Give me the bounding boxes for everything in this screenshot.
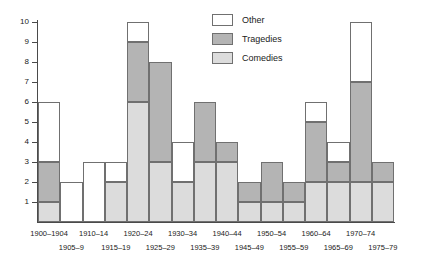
legend-swatch-other-icon: [212, 14, 233, 26]
stacked-bar-chart: 12345678910 1900–19041905–91910–141915–1…: [0, 0, 440, 269]
bar-segment-tragedies[interactable]: [149, 62, 171, 162]
bar-segment-tragedies[interactable]: [305, 122, 327, 182]
bar-1965-69[interactable]: [327, 22, 349, 222]
bar-segment-other[interactable]: [127, 22, 149, 42]
y-axis-tick-label: 1: [9, 198, 29, 206]
bar-segment-comedies[interactable]: [283, 202, 305, 222]
x-axis-tick-label: 1955–59: [270, 244, 318, 252]
y-axis-tick-label: 10: [9, 18, 29, 26]
bar-segment-comedies[interactable]: [149, 162, 171, 222]
bar-1915-19[interactable]: [105, 22, 127, 222]
y-axis-tick-label: 6: [9, 98, 29, 106]
x-axis-tick-label: 1975–79: [359, 244, 407, 252]
bar-segment-other[interactable]: [105, 162, 127, 182]
bar-segment-comedies[interactable]: [305, 182, 327, 222]
bar-segment-other[interactable]: [60, 182, 82, 222]
bar-segment-tragedies[interactable]: [216, 142, 238, 162]
x-axis-tick-label: 1965–69: [314, 244, 362, 252]
bar-segment-other[interactable]: [38, 102, 60, 162]
legend-swatch-comedies-icon: [212, 52, 233, 64]
bar-1900-1904[interactable]: [38, 22, 60, 222]
bar-segment-other[interactable]: [172, 142, 194, 182]
bar-segment-comedies[interactable]: [172, 182, 194, 222]
bar-segment-other[interactable]: [327, 142, 349, 162]
bar-segment-tragedies[interactable]: [372, 162, 394, 182]
bar-1970-74[interactable]: [350, 22, 372, 222]
x-axis-line: [37, 222, 395, 223]
legend-item-tragedies[interactable]: Tragedies: [212, 31, 283, 47]
x-axis-tick-label: 1910–14: [70, 230, 118, 238]
y-axis-tick-label: 4: [9, 138, 29, 146]
bar-1955-59[interactable]: [283, 22, 305, 222]
bar-segment-comedies[interactable]: [238, 202, 260, 222]
bar-1925-29[interactable]: [149, 22, 171, 222]
bar-segment-comedies[interactable]: [327, 182, 349, 222]
x-axis-tick-label: 1935–39: [181, 244, 229, 252]
x-axis-tick-label: 1950–54: [248, 230, 296, 238]
bar-segment-comedies[interactable]: [261, 202, 283, 222]
bar-segment-comedies[interactable]: [372, 182, 394, 222]
y-axis-tick-label: 9: [9, 38, 29, 46]
bar-1975-79[interactable]: [372, 22, 394, 222]
bar-1920-24[interactable]: [127, 22, 149, 222]
bar-segment-tragedies[interactable]: [350, 82, 372, 182]
bar-segment-tragedies[interactable]: [261, 162, 283, 202]
bar-segment-comedies[interactable]: [38, 202, 60, 222]
legend-swatch-tragedies-icon: [212, 33, 233, 45]
bar-segment-tragedies[interactable]: [38, 162, 60, 202]
legend-label: Tragedies: [242, 35, 282, 44]
bar-segment-other[interactable]: [305, 102, 327, 122]
x-axis-tick-label: 1940–44: [203, 230, 251, 238]
bar-segment-comedies[interactable]: [350, 182, 372, 222]
bar-segment-comedies[interactable]: [194, 162, 216, 222]
y-axis-tick-label: 2: [9, 178, 29, 186]
x-axis-tick-label: 1920–24: [114, 230, 162, 238]
x-axis-tick-label: 1905–9: [47, 244, 95, 252]
legend-item-other[interactable]: Other: [212, 12, 283, 28]
x-axis-tick-label: 1930–34: [159, 230, 207, 238]
bar-1930-34[interactable]: [172, 22, 194, 222]
legend-label: Comedies: [242, 54, 283, 63]
bar-segment-other[interactable]: [350, 22, 372, 82]
y-axis-tick-label: 8: [9, 58, 29, 66]
bar-segment-comedies[interactable]: [216, 162, 238, 222]
bar-segment-comedies[interactable]: [127, 102, 149, 222]
bar-1905-9[interactable]: [60, 22, 82, 222]
x-axis-tick-label: 1900–1904: [25, 230, 73, 238]
bar-segment-tragedies[interactable]: [327, 162, 349, 182]
legend-label: Other: [242, 16, 265, 25]
x-axis-tick-label: 1925–29: [136, 244, 184, 252]
x-axis-tick-label: 1915–19: [92, 244, 140, 252]
y-axis-tick-label: 5: [9, 118, 29, 126]
x-axis-tick-label: 1970–74: [337, 230, 385, 238]
x-axis-tick-label: 1960–64: [292, 230, 340, 238]
bar-1960-64[interactable]: [305, 22, 327, 222]
y-axis-tick-label: 3: [9, 158, 29, 166]
y-axis-tick-label: 7: [9, 78, 29, 86]
bar-1910-14[interactable]: [83, 22, 105, 222]
bar-segment-other[interactable]: [83, 162, 105, 222]
bar-segment-comedies[interactable]: [105, 182, 127, 222]
legend: OtherTragediesComedies: [212, 12, 283, 69]
bar-segment-tragedies[interactable]: [127, 42, 149, 102]
x-axis-tick-label: 1945–49: [225, 244, 273, 252]
legend-item-comedies[interactable]: Comedies: [212, 50, 283, 66]
bar-segment-tragedies[interactable]: [238, 182, 260, 202]
bar-segment-tragedies[interactable]: [283, 182, 305, 202]
bar-segment-tragedies[interactable]: [194, 102, 216, 162]
